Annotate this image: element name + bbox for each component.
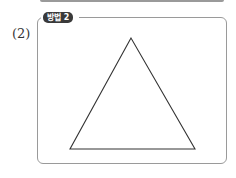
triangle-shape	[70, 38, 195, 149]
triangle-figure	[0, 0, 236, 178]
